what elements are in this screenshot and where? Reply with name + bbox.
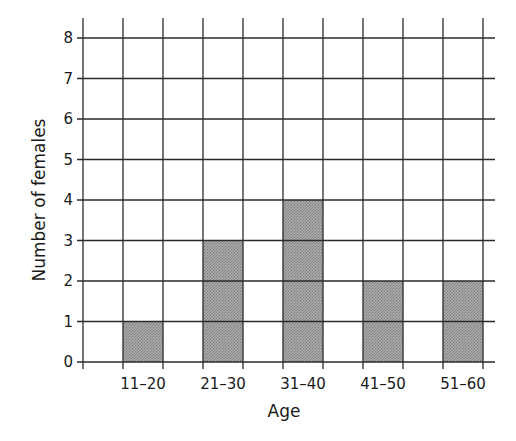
y-axis-ticks: 012345678	[63, 29, 73, 371]
y-tick-label: 5	[63, 151, 73, 169]
y-tick-label: 8	[63, 29, 73, 47]
y-tick-label: 0	[63, 353, 73, 371]
y-tick-label: 3	[63, 232, 73, 250]
y-tick-label: 1	[63, 313, 73, 331]
x-tick-label: 21–30	[200, 375, 246, 393]
x-axis-ticks: 11–2021–3031–4041–5051–60	[120, 375, 486, 393]
x-tick-label: 41–50	[360, 375, 406, 393]
histogram-chart: 012345678 11–2021–3031–4041–5051–60 Age …	[0, 0, 516, 441]
y-axis-title: Number of females	[29, 118, 49, 281]
x-tick-label: 51–60	[440, 375, 486, 393]
y-tick-label: 7	[63, 70, 73, 88]
x-tick-label: 11–20	[120, 375, 166, 393]
x-tick-label: 31–40	[280, 375, 326, 393]
y-tick-label: 6	[63, 110, 73, 128]
y-tick-label: 4	[63, 191, 73, 209]
x-axis-title: Age	[268, 401, 301, 421]
y-tick-label: 2	[63, 272, 73, 290]
bar-21–30	[203, 241, 243, 363]
bar-11–20	[123, 322, 163, 363]
